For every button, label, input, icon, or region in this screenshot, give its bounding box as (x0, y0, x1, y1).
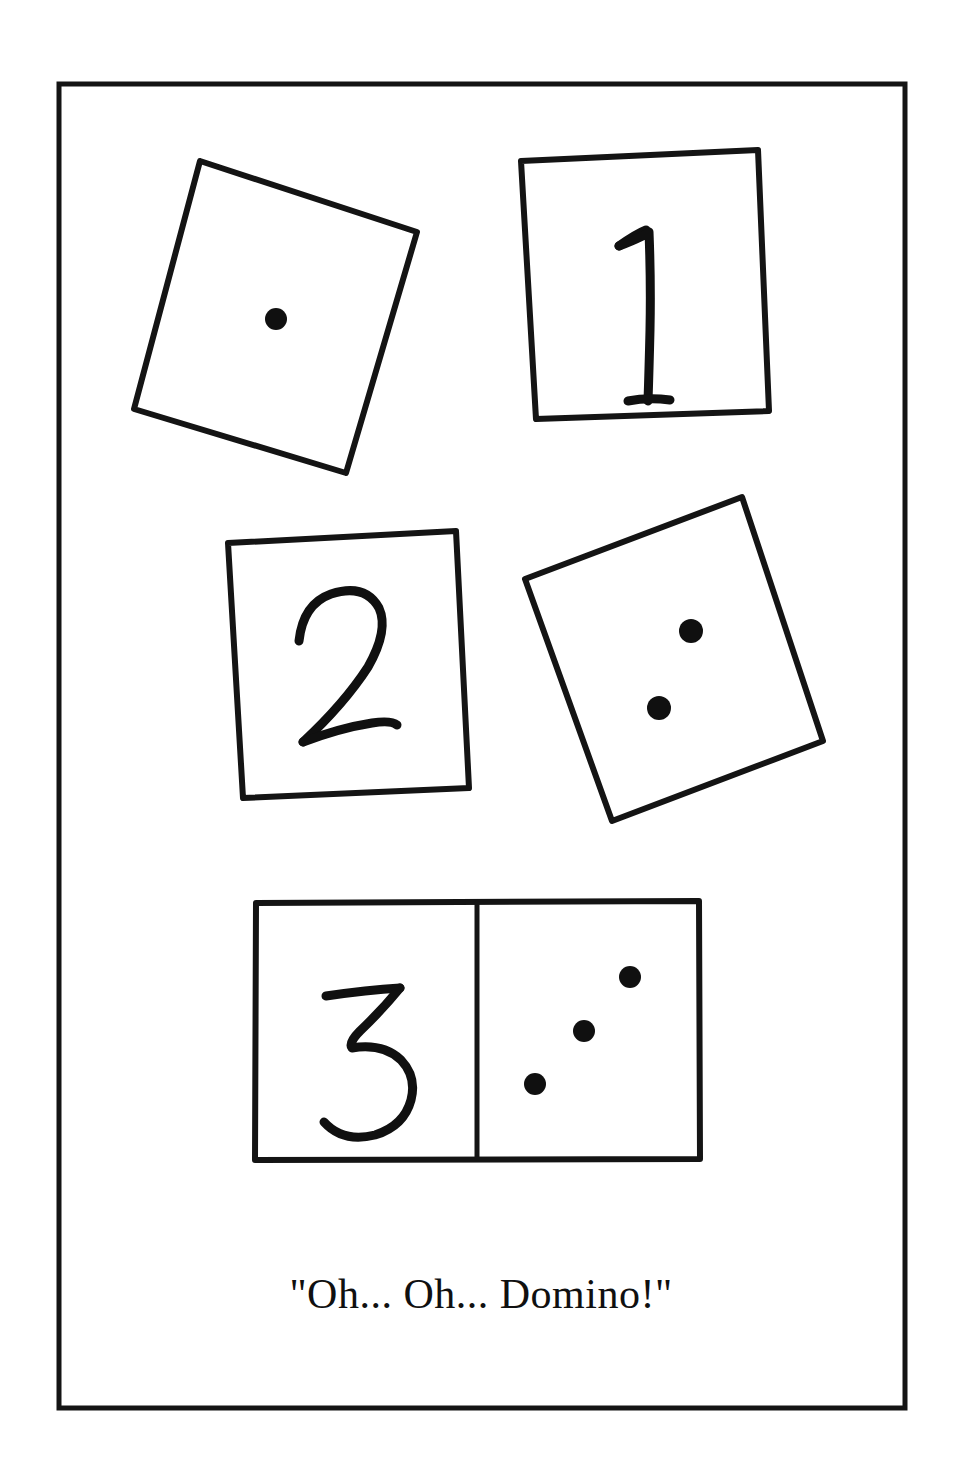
pip-dot (265, 308, 287, 330)
pip-dot (647, 696, 671, 720)
pip-dot (524, 1073, 546, 1095)
caption: "Oh... Oh... Domino!" (289, 1271, 672, 1317)
card-outline (525, 497, 823, 821)
card-numeral-1[interactable]: 1 (0, 0, 769, 419)
card-outline (228, 531, 469, 798)
pip-dot (619, 966, 641, 988)
cartoon-panel: 1 2 3 (0, 0, 962, 1470)
card-two-pips[interactable] (525, 497, 823, 821)
card-one-pip[interactable] (134, 161, 417, 473)
pip-dot (679, 619, 703, 643)
pip-dot (573, 1020, 595, 1042)
cartoon-canvas: 1 2 3 (0, 0, 962, 1470)
